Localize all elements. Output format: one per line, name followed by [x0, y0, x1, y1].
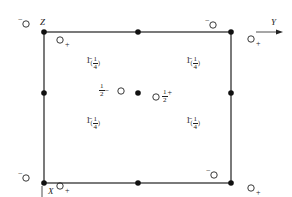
symmetry-points	[41, 29, 234, 186]
center-right-height: 12+	[162, 89, 172, 104]
general-positions	[23, 21, 254, 191]
sign-minus-tl: −	[18, 16, 23, 24]
y-arrowhead-icon	[276, 30, 283, 35]
unit-cell-outline	[44, 32, 231, 183]
sign-plus-bl: +	[65, 187, 70, 195]
sign-minus-bl: −	[18, 170, 23, 178]
sign-minus-br: −	[206, 167, 211, 175]
inversion-label-br: 1̄(14)	[186, 116, 200, 131]
sign-plus-tr: +	[256, 40, 261, 48]
inversion-label-tl: 1̄(14)	[86, 56, 100, 71]
origin-label-z: Z	[40, 18, 45, 27]
axis-label-x: X	[48, 187, 54, 196]
center-left-height: 12−	[99, 83, 109, 98]
diagram-canvas	[0, 0, 292, 197]
sign-minus-tr: −	[205, 17, 210, 25]
inversion-label-bl: 1̄(14)	[86, 116, 100, 131]
sign-plus-br: +	[256, 189, 261, 197]
axis-label-y: Y	[271, 18, 276, 27]
inversion-label-tr: 1̄(14)	[186, 56, 200, 71]
sign-plus-tl: +	[65, 41, 70, 49]
